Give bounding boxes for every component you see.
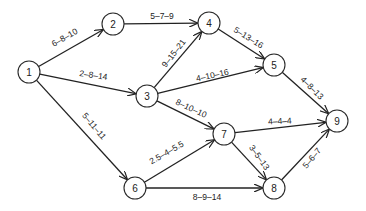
node-label: 9: [334, 116, 340, 127]
edge-2-4-arrow: [124, 23, 198, 24]
node-label: 3: [144, 91, 150, 102]
node-label: 1: [26, 67, 32, 78]
edge-6-8-duration-label: 8–9–14: [193, 192, 222, 202]
edge-1-6-duration-label: 5–11–11: [80, 111, 108, 142]
node-4: 4: [198, 12, 220, 34]
node-5: 5: [263, 54, 285, 76]
edge-4-5-duration-label: 5–13–16: [232, 24, 266, 50]
node-label: 5: [271, 60, 277, 71]
node-label: 2: [110, 19, 116, 30]
edge-8-9-duration-label: 5–6–7: [300, 146, 323, 171]
edge-3-7-duration-label: 8–10–10: [174, 97, 208, 120]
edge-7-9-duration-label: 4–4–4: [268, 115, 292, 126]
node-label: 6: [132, 183, 138, 194]
node-9: 9: [326, 110, 348, 132]
edge-1-3-duration-label: 2–8–14: [79, 68, 109, 82]
node-1: 1: [18, 61, 40, 83]
node-7: 7: [213, 123, 235, 145]
edge-labels-layer: 6–8–102–8–145–11–115–7–99–15–214–10–168–…: [50, 11, 326, 202]
edge-1-6-arrow: [36, 80, 127, 179]
node-label: 4: [206, 18, 212, 29]
edge-5-9-duration-label: 4–8–13: [299, 74, 326, 101]
edge-6-7-duration-label: 2.5–4–5.5: [148, 138, 186, 166]
activity-network-diagram: 6–8–102–8–145–11–115–7–99–15–214–10–168–…: [0, 0, 366, 211]
node-8: 8: [263, 177, 285, 199]
node-6: 6: [124, 177, 146, 199]
edge-8-9-arrow: [282, 129, 330, 180]
edge-2-4-duration-label: 5–7–9: [150, 11, 174, 21]
node-label: 8: [271, 183, 277, 194]
node-label: 7: [221, 129, 227, 140]
edge-7-8-duration-label: 3–5–13: [247, 143, 272, 172]
node-3: 3: [136, 85, 158, 107]
edge-3-5-duration-label: 4–10–16: [195, 67, 230, 84]
node-2: 2: [102, 13, 124, 35]
